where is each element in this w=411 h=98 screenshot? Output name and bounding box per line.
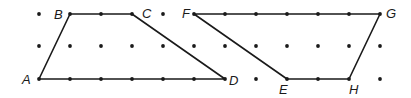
vertex-label-d: D	[229, 73, 238, 88]
grid-dot	[37, 44, 41, 48]
grid-dot	[37, 12, 41, 16]
vertex-label-h: H	[349, 82, 359, 97]
grid-dot	[192, 44, 196, 48]
diagram-canvas: ABCDFGHE	[0, 0, 411, 98]
vertex-label-f: F	[182, 6, 191, 21]
grid-dot	[99, 44, 103, 48]
vertex-label-e: E	[279, 82, 288, 97]
grid-dot	[347, 44, 351, 48]
vertex-label-g: G	[386, 6, 396, 21]
vertex-label-c: C	[142, 6, 152, 21]
grid-dot	[68, 44, 72, 48]
dot-grid-diagram: ABCDFGHE	[0, 0, 411, 98]
grid-dots	[37, 12, 382, 81]
grid-dot	[316, 44, 320, 48]
grid-dot	[254, 77, 258, 81]
grid-dot	[130, 44, 134, 48]
grid-dot	[378, 44, 382, 48]
vertex-labels: ABCDFGHE	[21, 6, 396, 97]
grid-dot	[254, 44, 258, 48]
vertex-label-b: B	[54, 7, 63, 22]
grid-dot	[223, 44, 227, 48]
grid-dot	[161, 44, 165, 48]
shapes	[39, 14, 380, 79]
grid-dot	[285, 44, 289, 48]
vertex-label-a: A	[21, 72, 31, 87]
grid-dot	[378, 77, 382, 81]
grid-dot	[161, 12, 165, 16]
